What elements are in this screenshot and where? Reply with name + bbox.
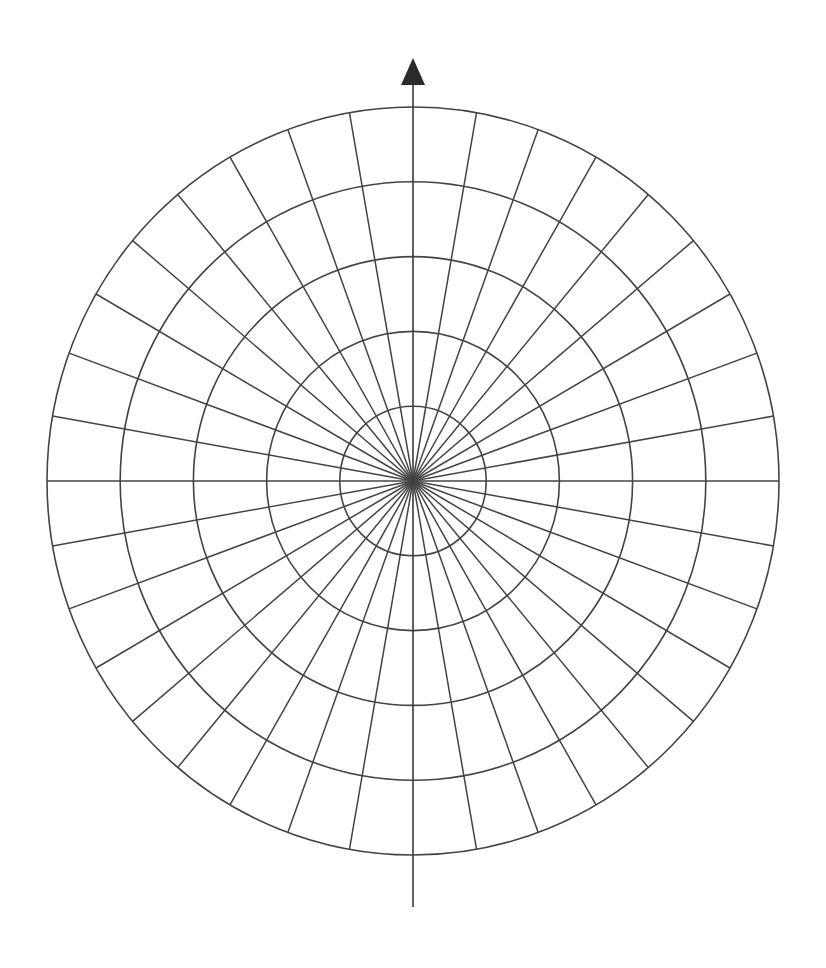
- polar-grid-canvas: [0, 0, 826, 968]
- polar-grid-diagram: [0, 0, 826, 968]
- up-arrow-icon: [401, 58, 425, 85]
